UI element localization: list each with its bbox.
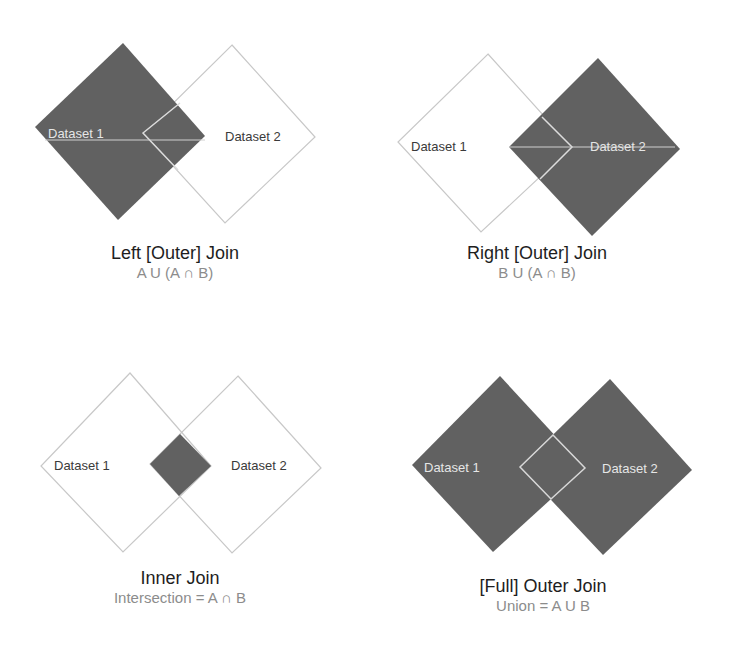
inner-join-title: Inner Join <box>30 568 330 588</box>
left-join-caption: Left [Outer] Join A U (A ∩ B) <box>25 243 325 282</box>
dataset1-label: Dataset 1 <box>424 460 480 475</box>
right-join-title: Right [Outer] Join <box>387 243 687 263</box>
right-join-caption: Right [Outer] Join B U (A ∩ B) <box>387 243 687 282</box>
right-join-diagram: Dataset 1 Dataset 2 <box>398 54 680 236</box>
inner-join-formula: Intersection = A ∩ B <box>30 588 330 607</box>
full-outer-join-title: [Full] Outer Join <box>393 576 693 596</box>
intersection-diamond <box>150 434 211 496</box>
left-join-formula: A U (A ∩ B) <box>25 263 325 282</box>
dataset1-label: Dataset 1 <box>54 458 110 473</box>
dataset1-label: Dataset 1 <box>48 126 104 141</box>
right-join-formula: B U (A ∩ B) <box>387 263 687 282</box>
dataset1-label: Dataset 1 <box>411 139 467 154</box>
dataset2-label: Dataset 2 <box>231 458 287 473</box>
dataset2-label: Dataset 2 <box>602 461 658 476</box>
left-join-title: Left [Outer] Join <box>25 243 325 263</box>
dataset2-label: Dataset 2 <box>225 129 281 144</box>
full-outer-join-diagram: Dataset 1 Dataset 2 <box>412 376 692 555</box>
left-join-diagram: Dataset 1 Dataset 2 <box>35 43 315 223</box>
join-diagram-canvas: Dataset 1 Dataset 2 Dataset 1 Dataset 2 … <box>0 0 733 652</box>
inner-join-caption: Inner Join Intersection = A ∩ B <box>30 568 330 607</box>
full-outer-join-caption: [Full] Outer Join Union = A U B <box>393 576 693 615</box>
dataset2-label: Dataset 2 <box>590 139 646 154</box>
full-outer-join-formula: Union = A U B <box>393 596 693 615</box>
inner-join-diagram: Dataset 1 Dataset 2 <box>41 373 321 553</box>
